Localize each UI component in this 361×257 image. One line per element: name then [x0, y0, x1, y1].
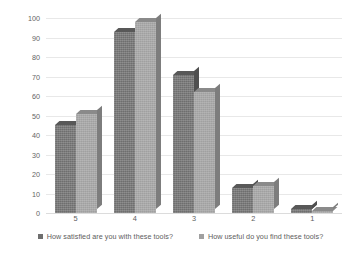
bar — [291, 209, 312, 213]
bar-side — [215, 84, 220, 209]
bar-side — [156, 14, 161, 209]
y-axis-tick-label: 20 — [32, 170, 40, 179]
bar-group — [167, 18, 221, 213]
bar-group — [285, 18, 339, 213]
x-axis-tick-label: 1 — [285, 214, 339, 223]
y-axis-tick-label: 30 — [32, 150, 40, 159]
y-axis-tick-label: 60 — [32, 92, 40, 101]
y-axis-tick-label: 50 — [32, 111, 40, 120]
bar-group — [108, 18, 162, 213]
bar-group — [49, 18, 103, 213]
bar — [232, 188, 253, 213]
y-axis-tick-label: 90 — [32, 33, 40, 42]
bar-face — [55, 125, 76, 213]
bar-face — [312, 211, 333, 213]
bar-face — [253, 186, 274, 213]
bar-face — [76, 114, 97, 213]
bar-face — [135, 22, 156, 213]
legend-label: How satisfied are you with these tools? — [47, 232, 173, 241]
bar — [312, 211, 333, 213]
bar-side — [274, 178, 279, 209]
bar — [253, 186, 274, 213]
bar — [173, 75, 194, 213]
y-axis-tick-label: 100 — [28, 14, 40, 23]
bar — [114, 32, 135, 213]
bar-face — [194, 92, 215, 213]
x-axis-tick-label: 5 — [49, 214, 103, 223]
y-axis-tick-label: 10 — [32, 189, 40, 198]
legend-item-series-2: How useful do you find these tools? — [199, 232, 323, 241]
bar-group — [226, 18, 280, 213]
legend-item-series-1: How satisfied are you with these tools? — [38, 232, 173, 241]
x-axis-tick-label: 4 — [108, 214, 162, 223]
bar-face — [291, 209, 312, 213]
y-axis-tick-label: 40 — [32, 131, 40, 140]
y-axis: 0102030405060708090100 — [0, 18, 46, 213]
x-axis-tick-label: 3 — [167, 214, 221, 223]
bar — [55, 125, 76, 213]
bar — [135, 22, 156, 213]
legend-swatch-icon — [199, 234, 204, 239]
x-axis: 54321 — [46, 214, 342, 228]
bar-face — [173, 75, 194, 213]
bar-face — [232, 188, 253, 213]
bar-side — [97, 105, 102, 209]
y-axis-tick-label: 0 — [36, 209, 40, 218]
chart-legend: How satisfied are you with these tools? … — [0, 232, 361, 241]
bar-face — [114, 32, 135, 213]
y-axis-tick-label: 70 — [32, 72, 40, 81]
bar-groups — [46, 18, 342, 213]
y-axis-tick-label: 80 — [32, 53, 40, 62]
bar — [76, 114, 97, 213]
bar — [194, 92, 215, 213]
bar-chart: 0102030405060708090100 54321 How satisfi… — [0, 0, 361, 257]
legend-label: How useful do you find these tools? — [208, 232, 323, 241]
x-axis-tick-label: 2 — [226, 214, 280, 223]
legend-swatch-icon — [38, 234, 43, 239]
